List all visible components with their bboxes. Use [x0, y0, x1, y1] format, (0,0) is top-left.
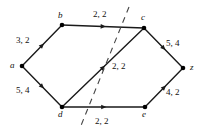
edge-c-z [144, 28, 183, 68]
edge-label-d-c: 2, 2 [112, 62, 126, 71]
node-label-e: e [142, 110, 146, 119]
edge-label-a-b: 3, 2 [16, 36, 30, 45]
node-label-c: c [141, 13, 145, 22]
node-b [60, 23, 65, 28]
node-c [142, 26, 147, 31]
node-label-b: b [58, 11, 63, 20]
edge-label-d-e: 2, 2 [95, 117, 109, 126]
node-label-a: a [10, 61, 15, 70]
edge-b-c [62, 24, 144, 29]
graph-canvas [0, 0, 202, 133]
node-label-z: z [190, 63, 194, 72]
edge-a-b [22, 25, 62, 66]
edge-arrowhead-d-e [101, 105, 106, 110]
edge-d-e [62, 105, 145, 110]
edge-layer [22, 24, 183, 109]
flow-network-figure: abcdez 3, 25, 42, 22, 22, 25, 44, 2 [0, 0, 202, 133]
node-z [181, 66, 186, 71]
node-a [20, 64, 25, 69]
edge-d-c [62, 28, 144, 107]
edge-label-a-d: 5, 4 [16, 86, 30, 95]
node-label-d: d [58, 110, 63, 119]
edge-arrowhead-b-c [101, 24, 106, 29]
edge-label-b-c: 2, 2 [93, 10, 107, 19]
edge-label-e-z: 4, 2 [166, 88, 180, 97]
edge-label-c-z: 5, 4 [166, 39, 180, 48]
node-layer [20, 23, 186, 110]
